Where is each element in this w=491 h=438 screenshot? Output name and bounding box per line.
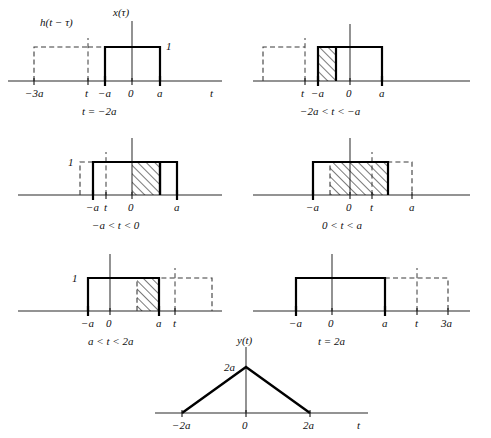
panel-condition: −a < t < 0 — [92, 219, 140, 231]
ticklabel-a: a — [409, 201, 415, 213]
overlap-hatch — [330, 162, 388, 195]
ticklabel-3a: 3a — [440, 317, 453, 329]
ticklabel-minus-a: −a — [86, 201, 99, 213]
ticklabel-zero: 0 — [242, 419, 248, 431]
overlap-hatch — [318, 47, 336, 81]
amplitude-label: 1 — [72, 272, 78, 284]
ticklabel-zero: 0 — [128, 201, 134, 213]
panel-a-lt-t-lt-2a: 1 −a 0 a t a < t < 2a — [18, 254, 222, 347]
convolution-figure: h(t − τ) x(τ) 1 −3a t −a 0 a t t = −2a — [0, 0, 491, 438]
ticklabel-t: t — [104, 201, 108, 213]
figure-canvas: h(t − τ) x(τ) 1 −3a t −a 0 a t t = −2a — [0, 0, 491, 438]
panel-condition: t = −2a — [82, 105, 117, 117]
ticklabel-t: t — [415, 317, 419, 329]
ticklabel-minus-a: −a — [81, 317, 94, 329]
ticklabel-a: a — [157, 87, 163, 99]
ticklabel-minus-a: −a — [306, 201, 319, 213]
overlap-hatch — [132, 162, 160, 195]
panel-condition: t = 2a — [318, 335, 345, 347]
ticklabel-minus-a: −a — [98, 87, 111, 99]
ticklabel-zero: 0 — [346, 87, 352, 99]
ticklabel-t: t — [301, 87, 305, 99]
panel-minus-a-lt-t-lt-0: 1 −a t 0 a −a < t < 0 — [18, 138, 222, 231]
panel-0-lt-t-lt-a: −a 0 t a 0 < t < a — [253, 138, 470, 231]
panel-condition: −2a < t < −a — [300, 105, 361, 117]
ticklabel-minus-3a: −3a — [25, 87, 44, 99]
ticklabel-t: t — [173, 317, 177, 329]
amplitude-label: 1 — [166, 40, 172, 52]
axis-variable-label: t — [357, 419, 361, 431]
panel-result: y(t) 2a −2a 0 2a t — [155, 334, 368, 431]
panel-condition: 0 < t < a — [322, 219, 362, 231]
shifted-pulse-dashed — [34, 47, 88, 81]
ticklabel-t: t — [85, 87, 89, 99]
result-label: y(t) — [236, 334, 253, 347]
amplitude-label: 1 — [68, 156, 74, 168]
overlap-hatch — [137, 278, 159, 311]
signal-pulse-right — [160, 162, 177, 195]
ticklabel-zero: 0 — [328, 317, 334, 329]
ticklabel-2a: 2a — [303, 419, 315, 431]
axis-variable-label: t — [210, 87, 214, 99]
shifted-pulse-dashed — [263, 47, 305, 81]
ticklabel-minus-a: −a — [289, 317, 302, 329]
h-shifted-label: h(t − τ) — [40, 16, 73, 29]
x-signal-label: x(τ) — [112, 6, 129, 19]
panel-t-eq-2a: −a 0 a t 3a t = 2a — [253, 254, 470, 347]
ticklabel-a: a — [379, 87, 385, 99]
ticklabel-minus-a: −a — [311, 87, 324, 99]
panel-t-eq-minus-2a: h(t − τ) x(τ) 1 −3a t −a 0 a t t = −2a — [8, 6, 222, 117]
ticklabel-a: a — [174, 201, 180, 213]
ticklabel-a: a — [382, 317, 388, 329]
ticklabel-zero: 0 — [346, 201, 352, 213]
ticklabel-a: a — [156, 317, 162, 329]
panel-condition: a < t < 2a — [88, 335, 134, 347]
ticklabel-zero: 0 — [106, 317, 112, 329]
ticklabel-zero: 0 — [128, 87, 134, 99]
signal-pulse — [296, 278, 385, 311]
panel-minus-2a-lt-t-lt-minus-a: t −a 0 a −2a < t < −a — [253, 24, 470, 117]
peak-label: 2a — [224, 361, 236, 373]
ticklabel-minus-2a: −2a — [172, 419, 191, 431]
ticklabel-t: t — [370, 201, 374, 213]
